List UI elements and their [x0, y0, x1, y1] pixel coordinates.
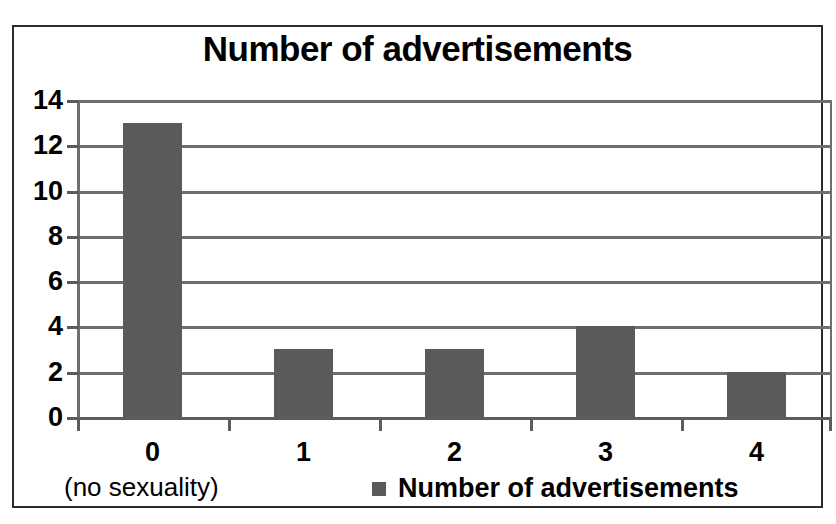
y-axis-tick-label: 2: [48, 358, 63, 385]
bar: [123, 123, 182, 417]
y-axis-tick: [67, 191, 79, 194]
y-axis-tick: [67, 236, 79, 239]
bar: [425, 349, 484, 417]
bar: [274, 349, 333, 417]
y-axis-tick: [67, 100, 79, 103]
x-axis-tick: [530, 417, 533, 431]
gridline: [77, 191, 832, 194]
bar: [576, 326, 635, 417]
x-axis-tick: [228, 417, 231, 431]
legend-label: Number of advertisements: [398, 475, 739, 502]
gridline: [77, 236, 832, 239]
y-axis-tick-label: 10: [33, 177, 63, 204]
gridline: [77, 281, 832, 284]
x-axis-tick: [681, 417, 684, 431]
x-axis-tick: [77, 417, 80, 431]
x-axis-tick-label: 1: [296, 439, 311, 466]
legend-swatch-icon: [372, 482, 386, 496]
y-axis-tick-label: 0: [48, 404, 63, 431]
x-axis-tick-label: 2: [447, 439, 462, 466]
gridline: [77, 326, 832, 329]
y-axis-tick: [67, 326, 79, 329]
chart-legend: Number of advertisements: [372, 475, 739, 502]
x-axis-tick: [829, 417, 832, 431]
gridline: [77, 417, 832, 420]
y-axis-tick: [67, 281, 79, 284]
y-axis-tick: [67, 372, 79, 375]
y-axis-tick-label: 6: [48, 268, 63, 295]
bar: [727, 372, 786, 417]
chart-frame: Number of advertisements 02468101214 012…: [12, 25, 823, 508]
no-sexuality-note: (no sexuality): [64, 474, 219, 500]
y-axis-tick-label: 12: [33, 132, 63, 159]
y-axis-tick-label: 14: [33, 87, 63, 114]
y-axis-tick-label: 8: [48, 222, 63, 249]
gridline: [77, 100, 832, 103]
x-axis-tick: [379, 417, 382, 431]
y-axis-tick-label: 4: [48, 313, 63, 340]
x-axis-tick-label: 0: [145, 439, 160, 466]
chart-page: Number of advertisements 02468101214 012…: [0, 0, 836, 524]
gridline: [77, 145, 832, 148]
plot-area: 02468101214 01234: [77, 100, 832, 417]
x-axis-tick-label: 4: [749, 439, 764, 466]
x-axis-tick-label: 3: [598, 439, 613, 466]
chart-title: Number of advertisements: [14, 29, 821, 69]
y-axis-tick: [67, 145, 79, 148]
